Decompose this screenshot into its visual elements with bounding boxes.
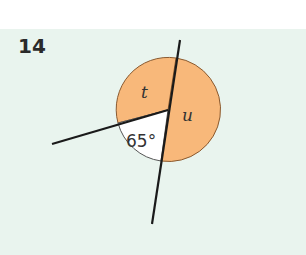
label-u: u	[182, 105, 193, 125]
label-t: t	[141, 82, 148, 102]
angle-diagram: t u 65°	[0, 0, 306, 255]
label-65: 65°	[126, 131, 156, 151]
